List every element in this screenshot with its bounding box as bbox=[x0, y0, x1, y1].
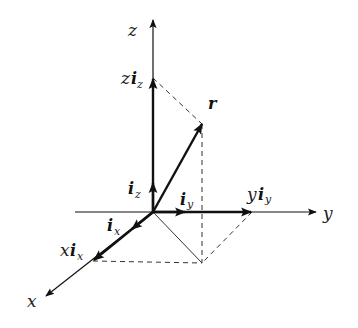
svg-text:z: z bbox=[120, 68, 131, 88]
iy-label: i y bbox=[180, 190, 194, 211]
svg-text:x: x bbox=[114, 225, 121, 238]
svg-text:i: i bbox=[180, 190, 186, 209]
y-axis-label: y bbox=[322, 203, 333, 223]
svg-text:y: y bbox=[186, 198, 194, 211]
coordinate-diagram: z y x r z i z i z i y y i y i x x i x bbox=[0, 0, 358, 328]
x-ix-label: x i x bbox=[60, 240, 84, 263]
svg-text:i: i bbox=[70, 241, 76, 260]
svg-text:x: x bbox=[60, 240, 70, 260]
z-iz-label: z i z bbox=[120, 68, 143, 91]
svg-text:y: y bbox=[264, 193, 272, 206]
y-iy-label: y i y bbox=[246, 184, 272, 206]
dash-ziz-to-r bbox=[153, 78, 202, 124]
svg-text:y: y bbox=[246, 184, 257, 204]
projection-line bbox=[153, 212, 202, 263]
svg-text:x: x bbox=[77, 250, 84, 263]
svg-text:z: z bbox=[136, 78, 143, 91]
position-vector-r bbox=[153, 124, 202, 212]
iz-label: i z bbox=[128, 179, 141, 201]
dash-xix-to-base bbox=[93, 261, 202, 263]
r-label: r bbox=[208, 94, 218, 113]
z-axis-label: z bbox=[127, 20, 138, 40]
dash-yiy-to-base bbox=[202, 212, 252, 263]
svg-text:i: i bbox=[107, 216, 113, 235]
x-axis-label: x bbox=[27, 291, 37, 311]
svg-text:i: i bbox=[258, 185, 264, 204]
ix-label: i x bbox=[107, 216, 121, 238]
svg-text:i: i bbox=[128, 179, 134, 198]
ix-unit-vector bbox=[132, 212, 153, 229]
svg-text:z: z bbox=[134, 188, 141, 201]
